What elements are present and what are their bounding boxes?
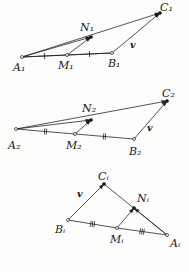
tick-mark [142, 229, 143, 234]
geometry-figure: A₁B₁C₁M₁N₁vA₂B₂C₂M₂N₂vAᵢBᵢCᵢMᵢNᵢv [0, 0, 189, 272]
vertex-dot-B [111, 52, 114, 55]
vertex-label-c-panel-3: Cᵢ [98, 171, 109, 182]
arrow-line-AC [22, 13, 160, 57]
vertex-label-c-panel-2: C₂ [162, 88, 175, 99]
vertex-dot-A [21, 56, 24, 59]
vertex-dot-B [133, 138, 136, 141]
vector-label-v-panel-1: v [130, 40, 136, 50]
figure-canvas [0, 0, 189, 272]
arrow-line-AN [22, 37, 91, 57]
arrow-line-AN [16, 120, 91, 129]
vertex-label-a-panel-2: A₂ [8, 140, 20, 151]
ticks-BM [90, 221, 95, 227]
arrow-line-BC [134, 101, 167, 139]
arrow-line-BC [112, 13, 160, 53]
vertex-dot-B [67, 219, 70, 222]
vector-label-v-panel-3: v [77, 189, 83, 199]
vertex-dot-A [15, 128, 18, 131]
vertex-label-a-panel-3: Aᵢ [170, 238, 180, 249]
vertex-label-n-panel-2: N₂ [82, 103, 96, 114]
vertex-label-c-panel-1: C₁ [160, 2, 173, 13]
vertex-dot-A [166, 234, 169, 237]
vertex-label-m-panel-1: M₁ [58, 60, 74, 71]
vertex-dot-M [116, 227, 119, 230]
segment-MB [75, 134, 134, 139]
vertex-label-b-panel-1: B₁ [108, 58, 121, 69]
tick-mark [92, 221, 93, 226]
vertex-label-m-panel-2: M₂ [66, 140, 82, 151]
vertex-label-n-panel-3: Nᵢ [137, 193, 149, 204]
vertex-label-m-panel-3: Mᵢ [110, 234, 123, 245]
tick-mark [140, 229, 141, 234]
vertex-dot-M [66, 54, 69, 57]
vertex-label-n-panel-1: N₁ [80, 22, 94, 33]
panel-1 [21, 11, 162, 58]
ticks-MA [140, 229, 144, 235]
vertex-dot-N [89, 35, 92, 38]
tick-mark [94, 222, 95, 227]
vertex-label-b-panel-2: B₂ [129, 146, 142, 157]
segment-AM [16, 129, 75, 134]
vertex-dot-N [89, 118, 92, 121]
vertex-dot-M [74, 133, 77, 136]
tick-mark [144, 229, 145, 234]
vector-label-v-panel-2: v [147, 123, 153, 133]
vertex-label-a-panel-1: A₁ [13, 62, 25, 73]
arrow-line-BC [68, 184, 104, 220]
vertex-dot-N [132, 206, 135, 209]
vertex-label-b-panel-3: Bᵢ [55, 224, 65, 235]
tick-mark [90, 221, 91, 226]
